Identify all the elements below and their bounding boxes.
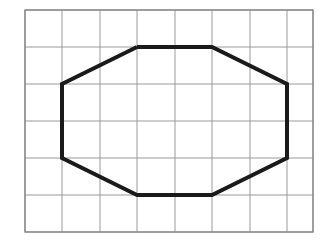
figure-canvas <box>0 0 326 246</box>
geometry-figure <box>0 0 326 246</box>
figure-background <box>0 0 326 246</box>
